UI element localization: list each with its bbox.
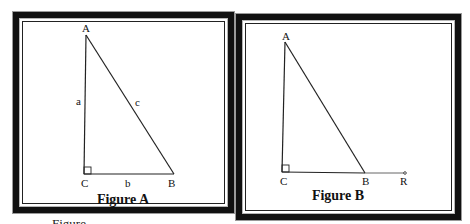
diagram-canvas: A a c C b B Figure A A C B R Figure B xyxy=(0,0,470,224)
right-angle-marker xyxy=(84,167,91,174)
side-ac-line xyxy=(282,42,285,172)
side-cb-line xyxy=(282,172,365,173)
vertex-label-b: B xyxy=(362,175,369,187)
right-angle-marker xyxy=(282,165,289,172)
vertex-label-c: C xyxy=(81,177,88,189)
vertex-label-a: A xyxy=(82,22,90,34)
point-r-marker xyxy=(404,172,407,175)
side-a-line xyxy=(84,35,86,174)
vertex-label-b: B xyxy=(168,177,175,189)
side-label-b: b xyxy=(125,177,131,189)
figure-a-triangle xyxy=(84,35,174,174)
side-ab-line xyxy=(285,42,365,173)
vertex-label-a: A xyxy=(282,30,290,42)
vertex-label-r: R xyxy=(400,175,408,187)
figure-a-caption: Figure A xyxy=(97,192,150,207)
cut-off-caption-text: Figure ... xyxy=(52,216,99,224)
side-label-a: a xyxy=(76,95,81,107)
side-c-line xyxy=(86,35,174,174)
vertex-label-c: C xyxy=(280,175,287,187)
side-label-c: c xyxy=(135,96,140,108)
figure-b-triangle xyxy=(282,42,406,174)
figure-b-caption: Figure B xyxy=(312,188,364,203)
